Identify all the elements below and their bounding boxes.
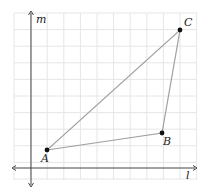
axis-label-m: m [36, 13, 46, 26]
axis-label-l: l [186, 169, 190, 182]
labels: ABCml [36, 13, 193, 182]
point-c [178, 28, 183, 33]
axes [12, 11, 197, 187]
point-label-c: C [184, 16, 193, 29]
coordinate-plane-diagram: ABCml [0, 0, 208, 192]
point-label-b: B [162, 135, 171, 148]
point-label-a: A [40, 152, 49, 165]
